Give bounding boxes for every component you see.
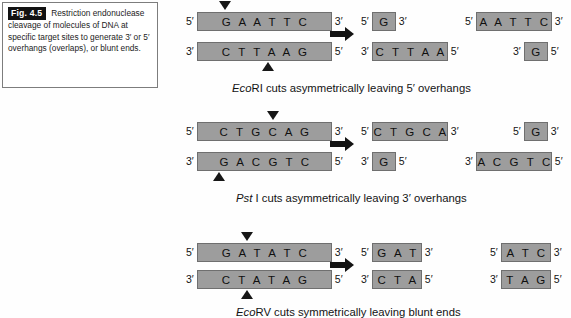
end-label-3prime: 3′ <box>335 247 343 258</box>
ecorv-product-left-top-strand: 5′ G A T 3′ <box>361 243 433 262</box>
dna-sequence-bar: G <box>524 42 548 61</box>
cut-site-arrow-top-icon <box>241 232 253 241</box>
end-label-3prime: 3′ <box>186 156 194 167</box>
end-label-5prime: 5′ <box>186 247 194 258</box>
dna-sequence-bar: C T A T A G <box>197 270 332 289</box>
end-label-5prime: 5′ <box>361 16 369 27</box>
psti-substrate-bottom-strand: 3′ G A C G T C 5′ <box>186 152 343 171</box>
dna-sequence-bar: G <box>524 122 548 141</box>
cut-site-arrow-top-icon <box>267 111 279 120</box>
cut-site-arrow-top-icon <box>219 1 231 10</box>
ecorv-substrate-top-strand: 5′ G A T A T C 3′ <box>186 243 343 262</box>
end-label-5prime: 5′ <box>554 274 562 285</box>
end-label-3prime: 3′ <box>399 16 407 27</box>
dna-sequence-bar: A T C <box>501 243 551 262</box>
psti-caption: Pst I cuts asymmetrically leaving 3′ ove… <box>236 192 467 204</box>
end-label-5prime: 5′ <box>361 126 369 137</box>
ecori-product-right-top-strand: 5′ A A T T C 3′ <box>465 12 563 31</box>
enzyme-name-italic: Eco <box>232 82 251 94</box>
psti-product-right-top-strand: 5′ G 3′ <box>513 122 559 141</box>
ecorv-caption: EcoRV cuts symmetrically leaving blunt e… <box>236 306 461 318</box>
dna-sequence-bar: T A G <box>501 270 551 289</box>
end-label-3prime: 3′ <box>361 156 369 167</box>
end-label-5prime: 5′ <box>186 16 194 27</box>
dna-sequence-bar: G A T <box>372 243 422 262</box>
dna-sequence-bar: G <box>372 12 396 31</box>
ecorv-product-right-bottom-strand: 3′ T A G 5′ <box>490 270 562 289</box>
enzyme-name-italic: Pst <box>236 192 252 204</box>
end-label-5prime: 5′ <box>399 156 407 167</box>
end-label-5prime: 5′ <box>555 156 563 167</box>
cut-site-arrow-bottom-icon <box>213 172 225 181</box>
ecorv-product-right-top-strand: 5′ A T C 3′ <box>490 243 562 262</box>
reaction-arrow-icon <box>330 137 354 151</box>
end-label-5prime: 5′ <box>465 16 473 27</box>
dna-sequence-bar: C T A <box>372 270 422 289</box>
enzyme-caption-text: RI cuts asymmetrically leaving 5′ overha… <box>251 82 470 94</box>
end-label-3prime: 3′ <box>551 126 559 137</box>
end-label-3prime: 3′ <box>555 16 563 27</box>
reaction-arrow-icon <box>330 27 354 41</box>
enzyme-caption-text: RV cuts symmetrically leaving blunt ends <box>255 306 460 318</box>
psti-substrate-top-strand: 5′ C T G C A G 3′ <box>186 122 343 141</box>
end-label-5prime: 5′ <box>335 46 343 57</box>
end-label-5prime: 5′ <box>551 46 559 57</box>
cut-site-arrow-bottom-icon <box>262 62 274 71</box>
ecori-product-left-bottom-strand: 3′ C T T A A 5′ <box>361 42 459 61</box>
ecori-product-left-top-strand: 5′ G 3′ <box>361 12 407 31</box>
dna-sequence-bar: C T T A A <box>372 42 448 61</box>
dna-sequence-bar: C T G C A G <box>197 122 332 141</box>
psti-product-left-top-strand: 5′ C T G C A 3′ <box>361 122 459 141</box>
end-label-3prime: 3′ <box>335 16 343 27</box>
end-label-3prime: 3′ <box>186 46 194 57</box>
end-label-3prime: 3′ <box>554 247 562 258</box>
end-label-3prime: 3′ <box>335 126 343 137</box>
end-label-5prime: 5′ <box>425 274 433 285</box>
ecori-caption: EcoRI cuts asymmetrically leaving 5′ ove… <box>232 82 471 94</box>
end-label-3prime: 3′ <box>186 274 194 285</box>
enzyme-name-italic: Eco <box>236 306 255 318</box>
psti-product-left-bottom-strand: 3′ G 5′ <box>361 152 407 171</box>
ecori-substrate-top-strand: 5′ G A A T T C 3′ <box>186 12 343 31</box>
end-label-3prime: 3′ <box>513 46 521 57</box>
dna-sequence-bar: G A A T T C <box>197 12 332 31</box>
end-label-5prime: 5′ <box>513 126 521 137</box>
end-label-5prime: 5′ <box>361 247 369 258</box>
enzyme-caption-text: I cuts asymmetrically leaving 3′ overhan… <box>252 192 466 204</box>
end-label-3prime: 3′ <box>490 274 498 285</box>
ecorv-product-left-bottom-strand: 3′ C T A 5′ <box>361 270 433 289</box>
end-label-3prime: 3′ <box>361 46 369 57</box>
end-label-3prime: 3′ <box>361 274 369 285</box>
end-label-5prime: 5′ <box>490 247 498 258</box>
reaction-arrow-icon <box>330 258 354 272</box>
psti-product-right-bottom-strand: 3′ A C G T C 5′ <box>465 152 563 171</box>
dna-sequence-bar: G <box>372 152 396 171</box>
dna-sequence-bar: C T T A A G <box>197 42 332 61</box>
cut-site-arrow-bottom-icon <box>241 290 253 299</box>
end-label-3prime: 3′ <box>425 247 433 258</box>
end-label-3prime: 3′ <box>465 156 473 167</box>
dna-sequence-bar: A C G T C <box>476 152 552 171</box>
ecori-substrate-bottom-strand: 3′ C T T A A G 5′ <box>186 42 343 61</box>
dna-sequence-bar: C T G C A <box>372 122 448 141</box>
ecori-product-right-bottom-strand: 3′ G 5′ <box>513 42 559 61</box>
end-label-5prime: 5′ <box>451 46 459 57</box>
ecorv-substrate-bottom-strand: 3′ C T A T A G 5′ <box>186 270 343 289</box>
end-label-5prime: 5′ <box>335 274 343 285</box>
end-label-5prime: 5′ <box>186 126 194 137</box>
dna-sequence-bar: A A T T C <box>476 12 552 31</box>
end-label-3prime: 3′ <box>451 126 459 137</box>
dna-sequence-bar: G A C G T C <box>197 152 332 171</box>
end-label-5prime: 5′ <box>335 156 343 167</box>
dna-sequence-bar: G A T A T C <box>197 243 332 262</box>
